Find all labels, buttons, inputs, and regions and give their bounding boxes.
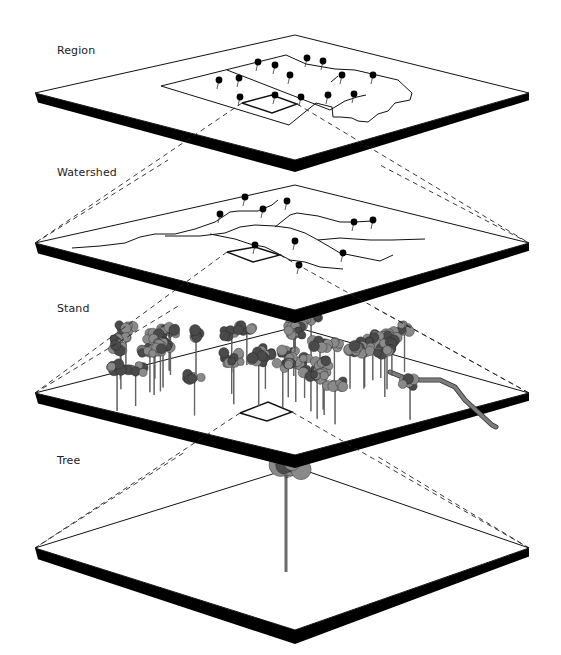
scale-hierarchy-diagram: Region Watershed Stand Tree bbox=[0, 0, 561, 655]
plate-surface bbox=[35, 467, 529, 630]
plate-region bbox=[35, 35, 529, 172]
level-label-watershed: Watershed bbox=[57, 166, 117, 179]
level-label-tree: Tree bbox=[57, 454, 80, 467]
level-label-region: Region bbox=[57, 44, 95, 57]
level-label-stand: Stand bbox=[57, 302, 90, 315]
diagram-canvas bbox=[0, 0, 561, 655]
plate-watershed bbox=[35, 185, 529, 323]
plate-stand bbox=[35, 312, 529, 468]
plate-surface bbox=[35, 35, 529, 160]
plate-tree bbox=[35, 451, 529, 644]
